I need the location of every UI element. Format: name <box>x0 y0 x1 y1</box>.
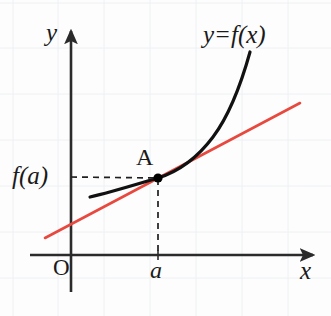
x-tick-label-a: a <box>150 258 162 282</box>
function-curve-label: y=f(x) <box>203 22 266 47</box>
y-axis-label: y <box>46 20 57 45</box>
point-a-marker <box>153 173 162 182</box>
function-curve <box>90 52 250 197</box>
point-a-label: A <box>136 145 153 169</box>
tangent-line-figure: y x O a f(a) A y=f(x) <box>0 0 331 316</box>
y-tick-label-fa: f(a) <box>12 163 48 188</box>
background-grid <box>0 0 331 316</box>
horizontal-dashed-guide <box>71 177 157 178</box>
origin-label: O <box>53 256 70 279</box>
figure-canvas <box>0 0 331 316</box>
x-axis-label: x <box>300 258 311 283</box>
